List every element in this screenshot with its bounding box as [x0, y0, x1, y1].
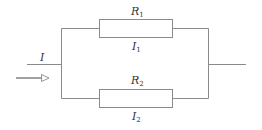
current-i1-label: I1: [131, 40, 141, 54]
current-direction-arrow-icon: [16, 75, 49, 82]
resistor-r1-label: R1: [130, 5, 144, 19]
resistor-r1: [100, 20, 173, 38]
input-current-label: I: [39, 51, 45, 64]
circuit-diagram: I R1 I1 R2 I2: [0, 0, 262, 130]
resistor-r2-label: R2: [130, 74, 144, 88]
current-i2-label: I2: [131, 110, 141, 124]
resistor-r2: [100, 90, 173, 108]
